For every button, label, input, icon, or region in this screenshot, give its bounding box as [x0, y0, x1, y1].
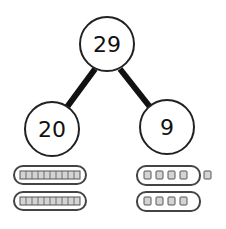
number-bond-diagram: 29 20 9	[0, 0, 226, 229]
part-right-label: 9	[160, 115, 174, 140]
ones-group-2	[137, 192, 200, 211]
whole-circle: 29	[80, 17, 134, 71]
ones-group-1	[137, 166, 200, 185]
tens-rod-group-1	[14, 166, 86, 184]
tens-rod-group-2	[14, 192, 86, 210]
connector-lines	[67, 69, 150, 107]
part-circle-right: 9	[140, 100, 194, 154]
part-circle-left: 20	[25, 102, 79, 156]
ones-extra-cube	[204, 171, 211, 179]
part-left-label: 20	[38, 117, 66, 142]
whole-label: 29	[93, 32, 121, 57]
